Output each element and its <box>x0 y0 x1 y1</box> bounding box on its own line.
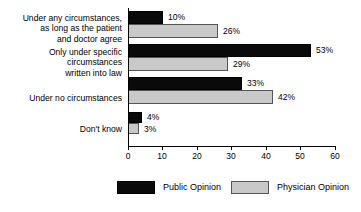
x-tick-label-0: 0 <box>116 151 140 161</box>
bar-value-public-3: 4% <box>147 112 159 122</box>
bar-public-0 <box>128 11 163 24</box>
bar-physician-3 <box>128 123 139 134</box>
bar-physician-2 <box>128 90 273 104</box>
x-tick-label-10: 10 <box>150 151 174 161</box>
plot-area: 10% 26% 53% 29% 33% 42% 4% 3% <box>128 8 336 146</box>
bar-physician-0 <box>128 24 218 38</box>
x-tick-label-20: 20 <box>185 151 209 161</box>
x-tick-60 <box>335 146 336 150</box>
x-tick-50 <box>300 146 301 150</box>
category-label-2: Under no circumstances <box>0 93 122 103</box>
bar-value-public-0: 10% <box>168 12 185 22</box>
x-tick-20 <box>197 146 198 150</box>
bar-public-1 <box>128 44 311 57</box>
x-tick-label-60: 60 <box>323 151 347 161</box>
category-label-1: Only under specific circumstances writte… <box>0 47 122 78</box>
y-axis-line <box>128 8 129 146</box>
x-tick-label-40: 40 <box>254 151 278 161</box>
bar-value-public-1: 53% <box>316 45 333 55</box>
bar-value-physician-3: 3% <box>144 124 156 134</box>
x-tick-10 <box>162 146 163 150</box>
bar-value-physician-2: 42% <box>278 92 295 102</box>
legend-label-public-opinion: Public Opinion <box>163 182 221 193</box>
x-tick-40 <box>266 146 267 150</box>
category-label-0: Under any circumstances, as long as the … <box>0 13 122 44</box>
x-tick-30 <box>231 146 232 150</box>
bar-chart: Under any circumstances, as long as the … <box>0 0 361 212</box>
bar-value-public-2: 33% <box>247 78 264 88</box>
category-label-3: Don't know <box>0 124 122 134</box>
x-axis-line <box>128 146 336 147</box>
bar-value-physician-0: 26% <box>223 26 240 36</box>
chart-legend: Public Opinion Physician Opinion <box>0 181 361 201</box>
bar-public-3 <box>128 112 142 123</box>
x-tick-label-50: 50 <box>288 151 312 161</box>
legend-swatch-public-opinion <box>117 181 155 194</box>
legend-swatch-physician-opinion <box>231 181 269 194</box>
x-tick-label-30: 30 <box>219 151 243 161</box>
bar-value-physician-1: 29% <box>233 59 250 69</box>
bar-public-2 <box>128 77 242 90</box>
x-tick-0 <box>128 146 129 150</box>
bar-physician-1 <box>128 57 228 71</box>
legend-label-physician-opinion: Physician Opinion <box>277 182 349 193</box>
